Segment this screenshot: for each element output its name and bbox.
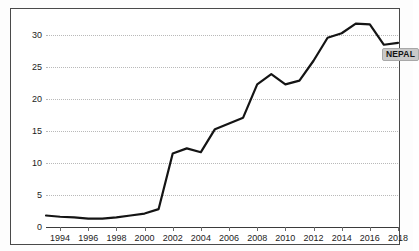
series-line-nepal bbox=[46, 16, 398, 227]
x-axis-tick-label: 1994 bbox=[50, 233, 70, 243]
x-axis-tick-label: 2002 bbox=[163, 233, 183, 243]
x-axis-tick bbox=[88, 227, 89, 231]
x-axis-tick bbox=[285, 227, 286, 231]
x-axis-tick-label: 2008 bbox=[247, 233, 267, 243]
x-axis-tick bbox=[342, 227, 343, 231]
series-label-nepal: NEPAL bbox=[382, 48, 419, 61]
x-axis-line bbox=[46, 227, 398, 228]
y-axis-tick-label: 25 bbox=[32, 62, 42, 72]
x-axis-tick-label: 2016 bbox=[360, 233, 380, 243]
plot-area: 051015202530 199419961998200020022004200… bbox=[46, 16, 398, 227]
x-axis-tick-label: 1996 bbox=[78, 233, 98, 243]
x-axis-tick bbox=[370, 227, 371, 231]
x-axis-tick bbox=[60, 227, 61, 231]
x-axis-tick bbox=[257, 227, 258, 231]
x-axis-tick bbox=[314, 227, 315, 231]
y-axis-tick-label: 5 bbox=[37, 190, 42, 200]
x-axis-tick-label: 2012 bbox=[304, 233, 324, 243]
x-axis-tick-label: 2004 bbox=[191, 233, 211, 243]
x-axis-tick bbox=[229, 227, 230, 231]
chart-frame: 051015202530 199419961998200020022004200… bbox=[10, 8, 400, 245]
x-axis-tick-label: 2018 bbox=[388, 233, 408, 243]
x-axis-tick bbox=[173, 227, 174, 231]
x-axis-tick bbox=[145, 227, 146, 231]
y-axis-tick-label: 10 bbox=[32, 158, 42, 168]
y-axis-tick-label: 30 bbox=[32, 30, 42, 40]
x-axis-tick-label: 2010 bbox=[275, 233, 295, 243]
y-axis-tick-label: 0 bbox=[37, 222, 42, 232]
x-axis-tick-label: 2006 bbox=[219, 233, 239, 243]
x-axis-tick-label: 2014 bbox=[332, 233, 352, 243]
x-axis-tick bbox=[201, 227, 202, 231]
x-axis-tick-label: 1998 bbox=[106, 233, 126, 243]
x-axis-tick-label: 2000 bbox=[135, 233, 155, 243]
y-axis-tick-label: 15 bbox=[32, 126, 42, 136]
x-axis-tick bbox=[398, 227, 399, 231]
y-axis-tick-label: 20 bbox=[32, 94, 42, 104]
x-axis-tick bbox=[116, 227, 117, 231]
